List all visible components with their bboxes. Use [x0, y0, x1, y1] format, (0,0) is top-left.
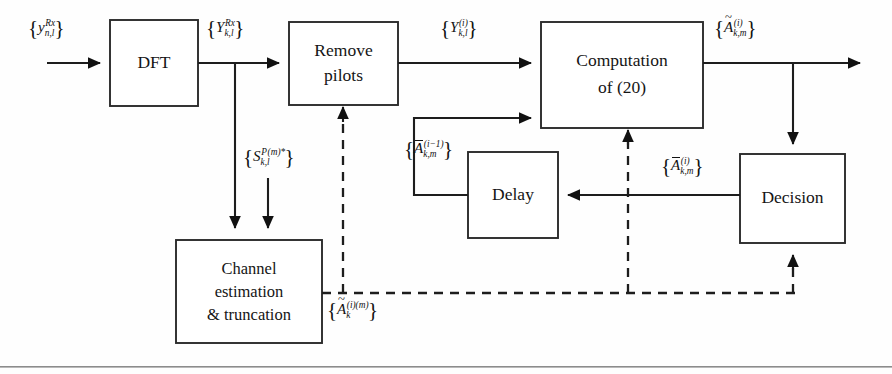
signal-label-channel-output: {A(i)(m)k} [327, 300, 378, 321]
signal-label-input: {yRxn,l} [28, 18, 65, 39]
block-remove-pilots [289, 22, 398, 105]
block-computation [541, 22, 703, 128]
block-label-remove-2: pilots [324, 65, 363, 85]
block-label-decision: Decision [761, 187, 823, 207]
signal-label-dft-output: {YRxk,l} [206, 18, 244, 39]
block-label-computation-1: Computation [576, 50, 668, 70]
signal-label-decision-input: {A(i)k,m} [661, 156, 704, 177]
block-label-delay: Delay [492, 184, 534, 204]
block-label-remove-1: Remove [314, 40, 373, 60]
signal-label-delay-input: {A(i−1)k,m} [404, 139, 453, 160]
signal-label-computation-output: {A(i)k,m} [714, 18, 757, 39]
block-label-computation-2: of (20) [598, 77, 646, 97]
block-label-dft: DFT [137, 52, 170, 72]
signal-label-pilot-conjugate: {SP (m)*k,l} [243, 147, 295, 168]
diagram-canvas: DFT Remove pilots Computation of (20) Ch… [0, 0, 892, 374]
block-diagram-figure: DFT Remove pilots Computation of (20) Ch… [0, 0, 892, 374]
block-label-channel-2: estimation [215, 282, 284, 301]
signal-label-remove-output: {Y(i)k,l} [440, 18, 478, 39]
block-label-channel-3: & truncation [207, 305, 291, 324]
block-label-channel-1: Channel [222, 259, 277, 278]
footer-rule [0, 366, 892, 368]
